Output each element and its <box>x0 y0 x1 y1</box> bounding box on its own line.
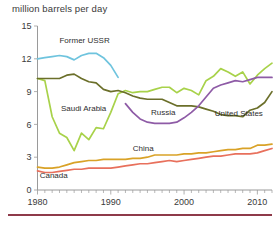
y-tick-label: 15 <box>21 21 31 31</box>
footer-divider <box>8 214 272 216</box>
x-tick-label: 2010 <box>247 197 267 207</box>
y-tick-label: 3 <box>26 152 31 162</box>
series-label-canada: Canada <box>40 171 69 180</box>
y-tick-label: 0 <box>26 185 31 195</box>
series-label-saudi-arabia: Saudi Arabia <box>61 104 107 113</box>
oil-production-line-chart: million barrels per day 0369121519801990… <box>0 0 280 226</box>
y-tick-label: 9 <box>26 87 31 97</box>
x-tick-label: 1990 <box>101 197 121 207</box>
series-line-former-ussr <box>38 53 119 77</box>
chart-plot-area: 036912151980199020002010 Former USSRSaud… <box>0 0 280 226</box>
series-label-united-states: United States <box>215 109 263 118</box>
series-label-china: China <box>133 144 154 153</box>
series-label-former-ussr: Former USSR <box>59 36 109 45</box>
y-tick-label: 12 <box>21 54 31 64</box>
series-line-canada <box>38 148 273 172</box>
series-labels-group: Former USSRSaudi ArabiaUnited StatesRuss… <box>40 36 263 179</box>
x-tick-label: 2000 <box>174 197 194 207</box>
y-tick-label: 6 <box>26 120 31 130</box>
series-label-russia: Russia <box>151 108 176 117</box>
x-tick-label: 1980 <box>27 197 47 207</box>
